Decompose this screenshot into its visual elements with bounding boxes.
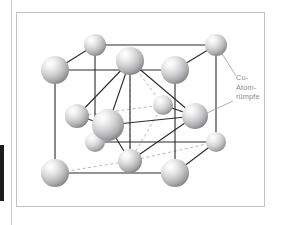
callout-line-3: rümpfe: [236, 92, 280, 102]
atom-corner-front-top-left: [41, 56, 69, 84]
leader-line-top: [221, 52, 236, 76]
cu-atomruempfe-label: Cu- Atom- rümpfe: [236, 73, 280, 102]
page-edge-black-bar: [0, 145, 4, 201]
atom-face-bottom: [118, 149, 142, 173]
atom-face-top: [116, 47, 144, 75]
callout-line-1: Cu-: [236, 73, 280, 83]
figure-frame: Cu- Atom- rümpfe: [16, 12, 265, 207]
atom-corner-back-top-right: [205, 34, 227, 56]
atom-face-back: [153, 95, 173, 115]
atom-corner-back-bottom-right: [206, 132, 226, 152]
atom-corner-back-top-left: [84, 34, 106, 56]
atom-corner-front-top-right: [161, 56, 189, 84]
fcc-lattice-diagram: [17, 13, 266, 208]
atom-face-left: [65, 104, 89, 128]
atom-corner-front-bottom-right: [161, 159, 189, 187]
page-edge-rule: [11, 0, 12, 225]
figure-page: Cu- Atom- rümpfe: [0, 0, 285, 225]
callout-line-2: Atom-: [236, 83, 280, 93]
atom-corner-front-bottom-left: [41, 159, 69, 187]
atom-spheres: [41, 34, 227, 187]
atom-face-right: [182, 103, 208, 129]
leader-line-bottom: [205, 101, 233, 114]
atom-face-front: [92, 109, 124, 141]
callout-leader-lines: [205, 52, 236, 114]
